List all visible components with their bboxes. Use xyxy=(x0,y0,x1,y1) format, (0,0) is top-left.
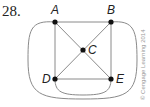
vertex-c xyxy=(80,47,85,52)
label-a: A xyxy=(51,3,59,17)
graph-figure xyxy=(0,0,150,107)
edge-d-e-lower-curve xyxy=(55,79,111,95)
vertex-b xyxy=(108,19,113,24)
vertex-d xyxy=(52,76,57,81)
vertex-a xyxy=(52,19,57,24)
edges xyxy=(28,22,137,99)
label-b: B xyxy=(107,3,115,17)
label-d: D xyxy=(42,72,51,86)
label-c: C xyxy=(88,43,97,57)
vertex-e xyxy=(108,76,113,81)
edge-a-b-outer-curve xyxy=(28,22,137,99)
label-e: E xyxy=(116,72,124,86)
copyright-credit: © Cengage Learning 2014 xyxy=(140,30,146,100)
